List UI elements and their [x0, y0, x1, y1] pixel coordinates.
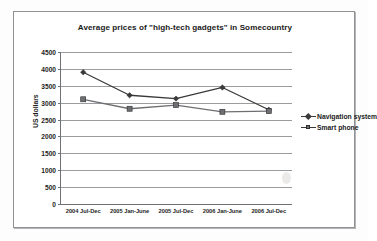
- y-axis-tick-label: 2500: [41, 116, 56, 123]
- legend-label: Navigation system: [317, 113, 377, 120]
- y-axis-tick-label: 3000: [41, 99, 56, 106]
- x-axis-tick-label: 2006 Jan-June: [198, 208, 246, 215]
- data-point-marker: [81, 97, 86, 102]
- data-point-marker: [81, 70, 86, 75]
- y-axis-tick: [58, 204, 61, 205]
- plot-area: 450040003500300025002000150010005000 200…: [60, 52, 292, 204]
- y-axis-tick-label: 3500: [41, 82, 56, 89]
- legend-item-smart-phone: Smart phone: [301, 122, 371, 133]
- chart-frame: Average prices of "high-tech gadgets" in…: [13, 11, 355, 228]
- legend-marker-diamond-icon: [301, 112, 316, 121]
- data-point-marker: [173, 96, 178, 101]
- data-point-marker: [220, 85, 225, 90]
- x-axis-tick-label: 2004 Jul-Dec: [59, 208, 107, 215]
- legend-label: Smart phone: [317, 124, 359, 131]
- y-axis-tick-label: 0: [52, 201, 56, 208]
- x-axis-tick-label: 2005 Jan-June: [106, 208, 154, 215]
- chart-legend: Navigation system Smart phone: [301, 111, 371, 133]
- legend-item-navigation-system: Navigation system: [301, 111, 371, 122]
- y-axis-tick-label: 4500: [41, 49, 56, 56]
- gridline: [60, 204, 292, 205]
- y-axis-tick-label: 1000: [41, 167, 56, 174]
- x-axis-tick-label: 2006 Jul-Dec: [245, 208, 293, 215]
- data-point-marker: [174, 103, 179, 108]
- data-point-marker: [220, 109, 225, 114]
- legend-marker-square-icon: [301, 123, 316, 132]
- y-axis-tick-label: 4000: [41, 65, 56, 72]
- x-axis-tick-label: 2005 Jul-Dec: [152, 208, 200, 215]
- y-axis-tick-label: 500: [45, 184, 56, 191]
- data-point-marker: [127, 106, 132, 111]
- chart-title: Average prices of "high-tech gadgets" in…: [14, 23, 356, 32]
- data-point-marker: [127, 93, 132, 98]
- y-axis-tick-label: 2000: [41, 133, 56, 140]
- series-layer: [60, 52, 292, 204]
- y-axis-title: US dollars: [32, 94, 39, 128]
- data-point-marker: [266, 109, 271, 114]
- y-axis-tick-label: 1500: [41, 150, 56, 157]
